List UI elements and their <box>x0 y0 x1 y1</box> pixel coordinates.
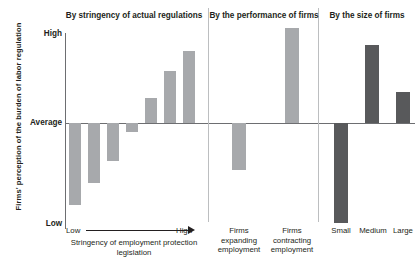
chart-figure: Firms' perception of the burden of labor… <box>0 0 420 273</box>
bar-stringency-7 <box>183 51 195 123</box>
bar-stringency-3 <box>107 123 119 161</box>
panel-header-performance: By the performance of firms <box>209 11 319 20</box>
y-axis-line <box>65 33 66 229</box>
panel-header-size: By the size of firms <box>319 11 415 20</box>
x-label-large: Large <box>386 226 420 236</box>
x-axis-start-label: Low <box>66 226 80 235</box>
panel-header-stringency: By stringency of actual regulations <box>59 11 209 20</box>
bar-stringency-1 <box>69 123 81 205</box>
x-axis-title-stringency: Stringency of employment protection legi… <box>66 238 202 258</box>
bar-stringency-4 <box>126 123 138 132</box>
y-tick-high: High <box>44 29 62 38</box>
bar-stringency-6 <box>164 71 176 123</box>
bar-size-small <box>334 123 348 223</box>
y-axis-ticks: High Average Low <box>16 0 62 273</box>
y-tick-low: Low <box>46 219 62 228</box>
x-axis-end-label: High <box>176 226 192 235</box>
bar-stringency-5 <box>145 98 157 123</box>
bar-size-large <box>396 92 410 123</box>
y-tick-average: Average <box>30 118 62 127</box>
panel-separator-1 <box>208 8 209 222</box>
bar-stringency-2 <box>88 123 100 183</box>
stringency-arrow-line <box>86 230 190 232</box>
bar-firms-expanding <box>232 123 246 170</box>
bar-firms-contracting <box>285 28 299 123</box>
bar-size-medium <box>365 45 379 123</box>
x-label-firms-expanding: Firms expanding employment <box>214 226 264 255</box>
x-label-firms-contracting: Firms contracting employment <box>267 226 317 255</box>
panel-separator-2 <box>318 8 319 222</box>
